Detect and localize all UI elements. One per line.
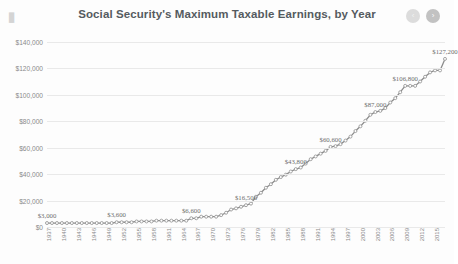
- x-axis-tick-label: 1982: [270, 228, 276, 241]
- data-point-marker: [145, 220, 148, 223]
- data-point-marker: [245, 204, 248, 207]
- data-point-marker: [155, 219, 158, 222]
- x-axis-tick-label: 2015: [434, 228, 440, 241]
- x-axis-tick-label: 1943: [76, 228, 82, 241]
- data-point-marker: [160, 219, 163, 222]
- data-point-marker: [289, 170, 292, 173]
- x-axis-tick-label: 2000: [360, 228, 366, 241]
- previous-slide-button[interactable]: ‹: [406, 9, 420, 23]
- x-axis-tick-label: 2012: [419, 228, 425, 241]
- data-label: $43,800: [285, 158, 307, 165]
- data-point-marker: [210, 215, 213, 218]
- data-point-marker: [294, 168, 297, 171]
- x-axis-tick-label: 2006: [389, 228, 395, 241]
- data-point-marker: [95, 222, 98, 225]
- y-axis-tick-label: $40,000: [19, 171, 43, 178]
- y-axis-tick-label: $0: [36, 224, 43, 231]
- data-point-marker: [354, 130, 357, 133]
- data-point-marker: [379, 109, 382, 112]
- data-point-marker: [259, 191, 262, 194]
- y-axis-tick-label: $140,000: [15, 39, 43, 46]
- data-point-marker: [55, 222, 58, 225]
- data-point-marker: [264, 186, 267, 189]
- data-point-marker: [389, 101, 392, 104]
- data-point-marker: [414, 84, 417, 87]
- x-axis-tick-label: 1964: [181, 228, 187, 241]
- data-label: $16,500: [235, 194, 257, 201]
- data-point-marker: [314, 155, 317, 158]
- data-point-marker: [349, 135, 352, 138]
- data-point-marker: [60, 222, 63, 225]
- data-point-marker: [105, 222, 108, 225]
- data-point-marker: [110, 222, 113, 225]
- y-axis-tick-label: $60,000: [19, 144, 43, 151]
- data-point-marker: [165, 219, 168, 222]
- x-axis-tick-label: 1952: [121, 228, 127, 241]
- x-axis-tick-label: 1958: [151, 228, 157, 241]
- data-point-marker: [235, 207, 238, 210]
- data-point-marker: [115, 221, 118, 224]
- x-axis-tick-label: 1976: [240, 228, 246, 241]
- x-axis-tick-label: 1973: [225, 228, 231, 241]
- x-axis-tick-label: 1967: [195, 228, 201, 241]
- data-label: $6,600: [182, 207, 201, 214]
- data-point-marker: [170, 219, 173, 222]
- data-point-marker: [140, 220, 143, 223]
- data-point-marker: [309, 158, 312, 161]
- data-point-marker: [150, 220, 153, 223]
- data-point-marker: [190, 217, 193, 220]
- data-label: $127,200: [432, 48, 458, 55]
- data-point-marker: [344, 139, 347, 142]
- data-point-marker: [369, 113, 372, 116]
- data-point-marker: [90, 222, 93, 225]
- data-point-marker: [279, 176, 282, 179]
- data-point-marker: [200, 215, 203, 218]
- data-label: $3,600: [107, 211, 126, 218]
- data-point-marker: [195, 217, 198, 220]
- x-axis: 1937194019431946194919521955195819611964…: [47, 228, 445, 264]
- x-axis-tick-label: 1949: [106, 228, 112, 241]
- data-point-marker: [230, 208, 233, 211]
- data-point-marker: [185, 219, 188, 222]
- page-title: Social Security's Maximum Taxable Earnin…: [60, 8, 394, 20]
- data-point-marker: [319, 152, 322, 155]
- x-axis-tick-label: 1961: [166, 228, 172, 241]
- data-point-marker: [429, 71, 432, 74]
- gridline: [47, 68, 445, 69]
- gridline: [47, 95, 445, 96]
- data-point-marker: [65, 222, 68, 225]
- data-point-marker: [424, 75, 427, 78]
- data-point-marker: [180, 219, 183, 222]
- data-point-marker: [249, 202, 252, 205]
- data-point-marker: [299, 166, 302, 169]
- next-slide-button[interactable]: ›: [426, 9, 440, 23]
- x-axis-tick-label: 1988: [300, 228, 306, 241]
- data-point-marker: [240, 205, 243, 208]
- chart-header: ▮ Social Security's Maximum Taxable Earn…: [0, 0, 454, 32]
- data-point-marker: [215, 215, 218, 218]
- data-point-marker: [404, 84, 407, 87]
- y-axis-tick-label: $80,000: [19, 118, 43, 125]
- data-label: $3,000: [38, 212, 57, 219]
- y-axis-tick-label: $20,000: [19, 197, 43, 204]
- plot-wrapper: $0$20,000$40,000$60,000$80,000$100,000$1…: [0, 32, 454, 264]
- x-axis-tick-label: 1991: [315, 228, 321, 241]
- y-axis-tick-label: $120,000: [15, 65, 43, 72]
- x-axis-tick-label: 1994: [330, 228, 336, 241]
- presentation-icon: ▮: [8, 9, 21, 24]
- data-point-marker: [444, 57, 447, 60]
- data-point-marker: [205, 215, 208, 218]
- x-axis-tick-label: 1955: [136, 228, 142, 241]
- x-axis-tick-label: 2003: [375, 228, 381, 241]
- data-label: $87,000: [364, 101, 386, 108]
- x-axis-tick-label: 1937: [46, 228, 52, 241]
- data-point-marker: [274, 178, 277, 181]
- data-point-marker: [130, 221, 133, 224]
- data-point-marker: [125, 221, 128, 224]
- x-axis-tick-label: 1985: [285, 228, 291, 241]
- data-label: $106,800: [392, 75, 418, 82]
- data-point-marker: [135, 220, 138, 223]
- data-point-marker: [220, 214, 223, 217]
- gridline: [47, 174, 445, 175]
